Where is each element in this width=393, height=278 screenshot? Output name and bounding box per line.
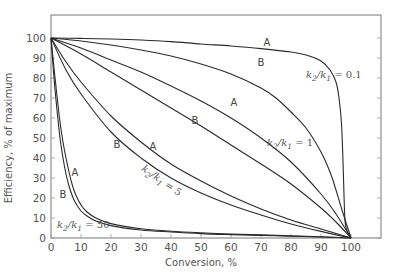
y-tick-label: 50 (33, 132, 46, 144)
chart-container: 0102030405060708090100010203040506070809… (0, 0, 393, 278)
x-tick-label: 10 (74, 241, 87, 253)
curve-label-a: A (264, 37, 271, 48)
x-tick-label: 20 (104, 241, 117, 253)
ratio-label: k2/k1 = 0.1 (306, 69, 362, 83)
y-tick-label: 80 (33, 72, 46, 84)
efficiency-conversion-chart: 0102030405060708090100010203040506070809… (0, 0, 393, 278)
x-tick-label: 0 (48, 241, 55, 253)
curve-label-a: A (231, 97, 238, 108)
curve-label-b: B (258, 57, 265, 68)
curve-label-b: B (192, 115, 199, 126)
x-tick-label: 100 (341, 241, 361, 253)
curve-label-a: A (72, 167, 79, 178)
y-axis-title: Efficiency, % of maximum (3, 73, 14, 203)
y-tick-label: 10 (33, 212, 46, 224)
x-axis-title: Conversion, % (165, 257, 237, 268)
plot-frame (51, 15, 381, 238)
plot-border (51, 15, 381, 238)
y-tick-label: 60 (33, 112, 46, 124)
y-tick-label: 100 (26, 32, 46, 44)
x-tick-label: 40 (164, 241, 177, 253)
ratio-label: k2/k1 = 1 (267, 137, 313, 151)
y-tick-label: 30 (33, 172, 46, 184)
x-tick-label: 70 (254, 241, 267, 253)
y-tick-label: 0 (39, 232, 46, 244)
curve-label-b: B (114, 139, 121, 150)
curve-label-a: A (150, 141, 157, 152)
y-tick-label: 20 (33, 192, 46, 204)
ratio-label: k2/k1 = 50 (57, 219, 110, 233)
curve-label-b: B (60, 189, 67, 200)
y-tick-label: 40 (33, 152, 46, 164)
x-tick-label: 60 (224, 241, 237, 253)
y-tick-label: 70 (33, 92, 46, 104)
y-tick-label: 90 (33, 52, 46, 64)
x-tick-label: 30 (134, 241, 147, 253)
x-tick-label: 90 (314, 241, 327, 253)
x-tick-label: 80 (284, 241, 297, 253)
x-tick-label: 50 (194, 241, 207, 253)
